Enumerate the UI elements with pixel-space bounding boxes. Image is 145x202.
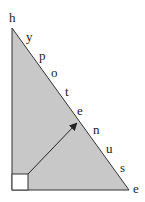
letter-6: n	[93, 122, 100, 137]
letter-4: t	[65, 84, 69, 99]
letter-1: y	[26, 29, 33, 44]
triangle-diagram: h y p o t e n u s e	[0, 0, 145, 202]
right-triangle	[12, 28, 129, 190]
letter-7: u	[106, 141, 113, 156]
letter-5: e	[77, 103, 83, 118]
letter-3: o	[51, 65, 58, 80]
letter-0: h	[9, 10, 16, 25]
letter-9: e	[133, 181, 139, 196]
letter-8: s	[120, 160, 125, 175]
letter-2: p	[39, 48, 46, 63]
right-angle-marker	[12, 174, 28, 190]
